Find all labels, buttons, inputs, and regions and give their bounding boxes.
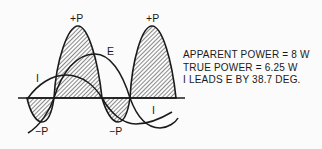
minus-p-label-2: −P xyxy=(109,126,122,137)
phase-lead-text: I LEADS E BY 38.7 DEG. xyxy=(183,74,310,87)
minus-p-label-1: −P xyxy=(35,126,48,137)
negative-power-lobe-1 xyxy=(27,98,54,122)
apparent-power-text: APPARENT POWER = 8 W xyxy=(183,49,310,62)
true-power-text: TRUE POWER = 6.25 W xyxy=(183,62,310,75)
power-info-block: APPARENT POWER = 8 W TRUE POWER = 6.25 W… xyxy=(183,49,310,87)
power-waveform-diagram: +P +P E I I −P −P APPARENT POWER = 8 W T… xyxy=(0,0,322,149)
plus-p-label-1: +P xyxy=(70,13,83,24)
positive-power-lobe-1 xyxy=(54,26,102,98)
plus-p-label-2: +P xyxy=(146,13,159,24)
i-curve-label-2: I xyxy=(152,105,155,116)
i-curve-label-1: I xyxy=(36,73,39,84)
e-curve-label: E xyxy=(107,46,114,57)
negative-power-lobe-2 xyxy=(102,98,130,122)
positive-power-lobe-2 xyxy=(130,26,176,98)
